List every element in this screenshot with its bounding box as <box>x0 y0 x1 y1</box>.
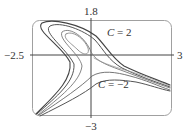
annotation-c-equals-minus-2: C = −2 <box>98 79 129 90</box>
contour-plot <box>0 0 192 136</box>
y-max-label: 1.8 <box>84 6 98 17</box>
x-min-label: −2.5 <box>4 50 24 61</box>
c-value: = 2 <box>114 26 131 38</box>
c-value: = −2 <box>105 78 128 90</box>
plot-frame <box>33 21 172 116</box>
level-curve-c1 <box>37 25 170 114</box>
y-min-label: −3 <box>85 121 97 132</box>
annotation-c-equals-2: C = 2 <box>107 27 132 38</box>
level-curve-inner-loop <box>65 33 88 54</box>
x-max-label: 3 <box>177 50 183 61</box>
